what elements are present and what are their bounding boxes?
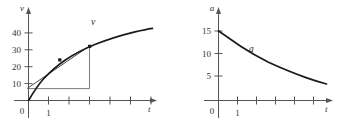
acceleration-y-tick-label-5: 5 [207, 71, 212, 81]
acceleration-y-axis [216, 7, 221, 118]
acceleration-chart: a t a 0 1 5 10 15 [202, 3, 333, 118]
acceleration-curve [219, 31, 327, 84]
velocity-y-tick-label-20: 20 [12, 62, 22, 72]
figure-svg: v t v 0 1 10 20 30 40 [0, 0, 343, 132]
velocity-y-axis-label: v [20, 3, 24, 13]
acceleration-y-tick-label-15: 15 [202, 26, 212, 36]
velocity-curve-label: v [91, 17, 96, 27]
acceleration-curve-label: a [249, 44, 254, 54]
velocity-x-axis-label: t [148, 104, 151, 114]
acceleration-y-axis-label: a [210, 3, 215, 13]
acceleration-y-tick-label-10: 10 [202, 49, 212, 59]
velocity-chart: v t v 0 1 10 20 30 40 [12, 3, 157, 118]
point-of-tangency [58, 58, 61, 61]
velocity-y-tick-label-40: 40 [12, 28, 22, 38]
velocity-y-axis [26, 7, 31, 118]
velocity-x-axis [14, 98, 157, 103]
velocity-x-tick-label-1: 1 [46, 108, 51, 118]
acceleration-x-tick-label-1: 1 [235, 108, 240, 118]
velocity-y-tick-label-10: 10 [12, 79, 22, 89]
upper-point [88, 45, 91, 48]
acceleration-x-axis-label: t [325, 104, 328, 114]
velocity-curve [29, 28, 153, 100]
two-panel-figure: v t v 0 1 10 20 30 40 [0, 0, 343, 132]
velocity-y-tick-label-30: 30 [12, 45, 22, 55]
acceleration-origin-label: 0 [210, 106, 215, 116]
velocity-origin-label: 0 [20, 106, 25, 116]
